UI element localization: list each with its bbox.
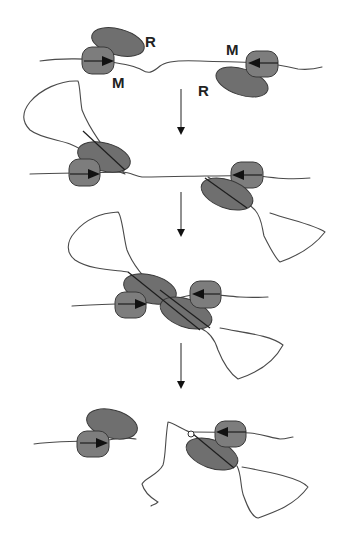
dna-loop-right (237, 466, 308, 518)
label-m-left: M (112, 74, 125, 91)
label-r-left: R (145, 33, 156, 50)
arrow-down-icon (177, 127, 185, 135)
stage-4-cleavage (34, 404, 308, 518)
arrow-down-icon (177, 381, 185, 389)
dna-loop-right (200, 328, 283, 379)
arrow-down-icon (177, 229, 185, 237)
dna-end-bead (188, 431, 194, 437)
step-arrow-3 (177, 343, 185, 389)
diagram-canvas: R M M R (0, 0, 347, 539)
step-arrow-1 (177, 89, 185, 135)
stage-3-collision (68, 212, 283, 379)
dna-fragment-right (142, 422, 190, 506)
step-arrow-2 (177, 192, 185, 237)
stage-2-translocation-loops (24, 81, 325, 262)
modification-protein-right (215, 421, 246, 447)
label-r-right: R (198, 82, 209, 99)
label-m-right: M (226, 41, 239, 58)
